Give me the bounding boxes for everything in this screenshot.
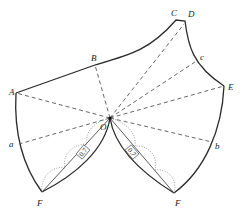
label-c: c [200, 52, 204, 62]
label-F-right: F [174, 198, 181, 208]
label-A: A [8, 87, 15, 97]
outline-top-left [16, 20, 224, 93]
label-E: E [227, 82, 234, 92]
label-b: b [215, 141, 220, 151]
label-B: B [91, 53, 97, 63]
label-O: O [100, 122, 107, 132]
line-Oa [19, 118, 110, 144]
pattern-diagram: 0.7 0.7 C D B A c E O a b F F [0, 0, 245, 213]
label-F-left: F [36, 198, 43, 208]
label-a: a [9, 139, 14, 149]
label-D: D [187, 9, 195, 19]
right-dart-inner [110, 118, 174, 193]
line-Ob [110, 118, 212, 142]
outline-left [16, 93, 42, 192]
line-Oc [110, 62, 195, 118]
line-OA [16, 93, 110, 118]
left-dart-measure: 0.7 [76, 145, 90, 160]
line-OE [110, 86, 224, 118]
line-OB [95, 65, 110, 118]
outline-right [174, 86, 224, 193]
point-O-marker [108, 116, 111, 119]
label-C: C [171, 8, 178, 18]
line-OD [110, 24, 184, 118]
right-dart-measure: 0.7 [125, 145, 139, 160]
